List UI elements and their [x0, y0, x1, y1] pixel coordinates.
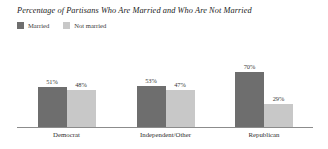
category-label-independent-other: Independent/Other — [116, 130, 215, 139]
bar-rect — [38, 87, 67, 127]
bar-rect — [264, 104, 293, 127]
legend-entry-married: Married — [17, 22, 49, 29]
bar-rect — [166, 90, 195, 127]
bar-independent-married: 53% — [137, 40, 166, 127]
category-label-democrat: Democrat — [17, 130, 116, 139]
bar-value-label: 53% — [145, 77, 157, 85]
category-label-republican: Republican — [215, 130, 313, 139]
bar-rect — [67, 90, 96, 127]
bar-value-label: 48% — [75, 81, 87, 89]
bar-independent-not-married: 47% — [166, 40, 195, 127]
bar-republican-not-married: 29% — [264, 40, 293, 127]
chart-legend: Married Not married — [17, 22, 106, 29]
axis-baseline — [17, 127, 313, 128]
bar-group-republican: 70% 29% — [215, 40, 313, 127]
legend-label-married: Married — [28, 22, 49, 29]
bar-democrat-married: 51% — [38, 40, 67, 127]
bar-rect — [137, 86, 166, 127]
legend-swatch-married-icon — [17, 22, 24, 29]
legend-label-not-married: Not married — [74, 22, 106, 29]
bar-republican-married: 70% — [235, 40, 264, 127]
bar-value-label: 47% — [174, 81, 186, 89]
bar-group-democrat: 51% 48% — [17, 40, 116, 127]
bar-value-label: 51% — [46, 78, 58, 86]
bar-group-independent-other: 53% 47% — [116, 40, 215, 127]
bar-rect — [235, 72, 264, 127]
chart-title: Percentage of Partisans Who Are Married … — [17, 5, 252, 16]
legend-entry-not-married: Not married — [63, 22, 106, 29]
bar-value-label: 29% — [273, 95, 285, 103]
legend-swatch-not-married-icon — [63, 22, 70, 29]
category-axis-labels: Democrat Independent/Other Republican — [17, 130, 313, 144]
bar-democrat-not-married: 48% — [67, 40, 96, 127]
bar-value-label: 70% — [244, 63, 256, 71]
bar-chart-figure: Percentage of Partisans Who Are Married … — [0, 0, 328, 149]
plot-area: 51% 48% 53% 47% 70% 29% — [17, 40, 313, 128]
